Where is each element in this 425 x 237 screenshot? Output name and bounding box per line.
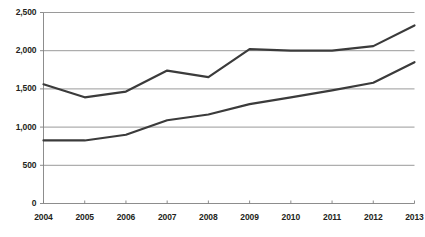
- gridlines: [44, 13, 415, 166]
- y-axis-ticks: [40, 13, 44, 204]
- axis-lines: [44, 13, 415, 204]
- line-chart: 05001,0001,5002,0002,500 200420052006200…: [0, 0, 425, 237]
- series-line-lower-series: [44, 62, 415, 140]
- chart-plot-area: [0, 0, 425, 237]
- data-series: [44, 25, 415, 140]
